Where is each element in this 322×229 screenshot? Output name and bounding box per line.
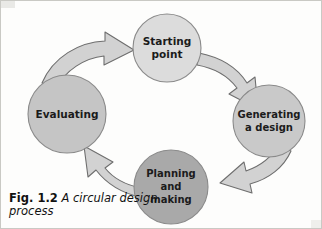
node-label-evaluating: Evaluating [36, 108, 99, 120]
node-generating-a-design[interactable]: Generating a design [233, 85, 305, 157]
node-starting-point[interactable]: Starting point [133, 14, 201, 82]
node-circle-generating-a-design [233, 85, 305, 157]
node-evaluating[interactable]: Evaluating [28, 75, 106, 153]
figure-number: Fig. 1.2 [9, 191, 58, 205]
node-label-starting-point-line-1: Starting [143, 35, 191, 47]
node-label-generating-a-design-line-2: a design [245, 122, 293, 133]
figure-caption: Fig. 1.2 A circular design process [9, 192, 159, 219]
node-label-planning-and-making-line-2: and [160, 181, 181, 192]
node-label-planning-and-making-line-1: Planning [146, 168, 195, 179]
node-label-generating-a-design-line-1: Generating [237, 109, 300, 120]
node-label-starting-point-line-2: point [152, 48, 183, 60]
arrow-planning-to-evaluating [84, 146, 141, 197]
figure-container: Starting point Generating a design Plann… [0, 0, 322, 229]
